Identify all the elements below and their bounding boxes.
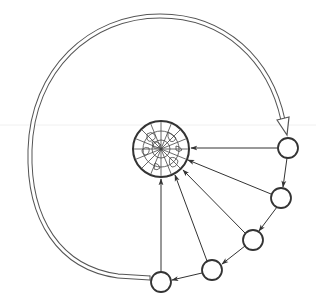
arrow-n4-globe [175, 175, 207, 261]
node-1 [278, 138, 298, 158]
arrow-n2-globe [188, 160, 271, 194]
arrow-n4-n5 [172, 273, 202, 280]
return-arc-arrowhead-icon [277, 117, 289, 135]
arrow-n1-n2 [283, 158, 287, 187]
arrow-n3-n4 [222, 246, 245, 264]
node-2 [271, 188, 291, 208]
globe-icon [133, 121, 189, 177]
arrow-n2-n3 [259, 207, 277, 231]
node-5 [151, 272, 171, 292]
node-3 [243, 230, 263, 250]
node-4 [202, 260, 222, 280]
orbit-cycle-diagram [0, 0, 316, 305]
